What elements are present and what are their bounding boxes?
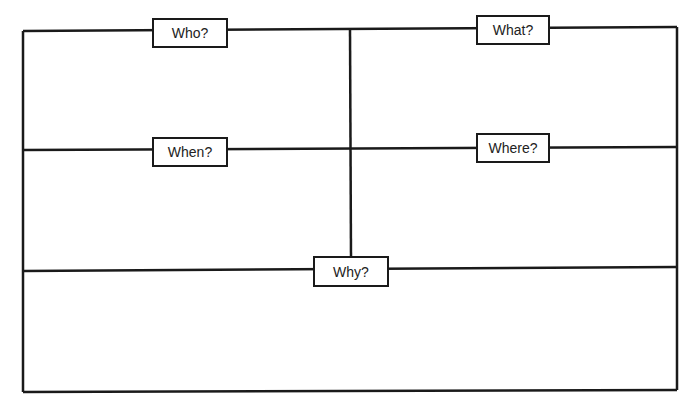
when-label-box: When? bbox=[152, 137, 228, 167]
where-label-box: Where? bbox=[476, 133, 550, 163]
why-label: Why? bbox=[333, 264, 369, 280]
who-label: Who? bbox=[172, 25, 209, 41]
who-label-box: Who? bbox=[152, 18, 228, 48]
what-label-box: What? bbox=[476, 15, 550, 45]
why-label-box: Why? bbox=[313, 256, 389, 287]
frame-bottom-line bbox=[23, 390, 677, 392]
what-label: What? bbox=[493, 22, 533, 38]
divider-center-line bbox=[350, 29, 351, 258]
organizer-grid bbox=[0, 0, 697, 406]
where-label: Where? bbox=[488, 140, 537, 156]
when-label: When? bbox=[168, 144, 212, 160]
